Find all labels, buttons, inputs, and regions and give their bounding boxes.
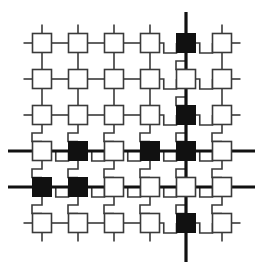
- node-square-dark[interactable]: [69, 142, 88, 161]
- node-square-dark[interactable]: [177, 34, 196, 53]
- node-square-light[interactable]: [177, 178, 196, 197]
- node-square-light[interactable]: [69, 34, 88, 53]
- node-square-light[interactable]: [105, 70, 124, 89]
- node-square-light[interactable]: [177, 70, 196, 89]
- node-square-dark[interactable]: [33, 178, 52, 197]
- node-square-light[interactable]: [141, 214, 160, 233]
- node-square-light[interactable]: [141, 178, 160, 197]
- node-square-light[interactable]: [105, 106, 124, 125]
- node-square-light[interactable]: [105, 214, 124, 233]
- node-square-light[interactable]: [33, 34, 52, 53]
- node-square-light[interactable]: [213, 178, 232, 197]
- node-square-dark[interactable]: [177, 214, 196, 233]
- node-square-light[interactable]: [69, 70, 88, 89]
- node-square-light[interactable]: [105, 34, 124, 53]
- node-square-light[interactable]: [213, 106, 232, 125]
- node-square-light[interactable]: [213, 34, 232, 53]
- node-square-light[interactable]: [33, 214, 52, 233]
- node-square-light[interactable]: [213, 70, 232, 89]
- node-square-light[interactable]: [105, 142, 124, 161]
- node-square-dark[interactable]: [69, 178, 88, 197]
- node-square-light[interactable]: [33, 142, 52, 161]
- node-square-light[interactable]: [69, 106, 88, 125]
- node-square-light[interactable]: [213, 142, 232, 161]
- node-square-dark[interactable]: [177, 142, 196, 161]
- node-square-dark[interactable]: [177, 106, 196, 125]
- node-square-light[interactable]: [69, 214, 88, 233]
- grid-canvas: [0, 0, 263, 270]
- node-square-light[interactable]: [141, 70, 160, 89]
- node-grid-diagram: [0, 0, 263, 270]
- node-square-dark[interactable]: [141, 142, 160, 161]
- node-square-light[interactable]: [141, 106, 160, 125]
- node-square-light[interactable]: [33, 70, 52, 89]
- node-square-light[interactable]: [141, 34, 160, 53]
- node-square-light[interactable]: [213, 214, 232, 233]
- node-square-light[interactable]: [33, 106, 52, 125]
- node-square-light[interactable]: [105, 178, 124, 197]
